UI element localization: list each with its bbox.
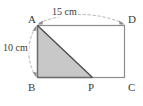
dimension-label-ad: 15 cm <box>51 7 78 17</box>
vertex-label-d: D <box>128 14 136 25</box>
dimension-arrowhead-top-left <box>38 21 44 25</box>
dimension-arrowhead-left-bottom <box>33 72 37 78</box>
dimension-label-ab: 10 cm <box>2 43 29 53</box>
dimension-arrowhead-left-top <box>33 26 37 32</box>
dimension-arc-left <box>29 27 36 76</box>
vertex-label-a: A <box>28 14 36 25</box>
geometry-figure: A D C B P 15 cm 10 cm <box>0 0 143 106</box>
point-label-p: P <box>88 82 94 93</box>
vertex-label-c: C <box>128 82 135 93</box>
dimension-arrowhead-top-right <box>119 21 125 25</box>
vertex-label-b: B <box>28 82 35 93</box>
